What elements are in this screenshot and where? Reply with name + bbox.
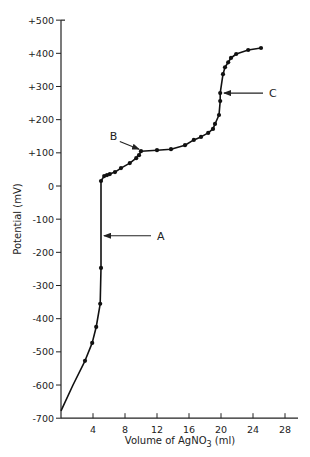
data-point bbox=[229, 56, 233, 60]
y-tick-label: -600 bbox=[32, 380, 54, 391]
arrow-B bbox=[120, 142, 139, 150]
data-point bbox=[90, 341, 94, 345]
data-point bbox=[99, 266, 103, 270]
data-series bbox=[61, 46, 263, 411]
data-point bbox=[217, 113, 221, 117]
data-point bbox=[98, 302, 102, 306]
data-point bbox=[234, 52, 238, 56]
x-axis: 481216202428 bbox=[61, 413, 298, 435]
data-point bbox=[199, 135, 203, 139]
data-point bbox=[108, 172, 112, 176]
data-point bbox=[83, 359, 87, 363]
y-axis: +500+400+300+200+1000-100-200-300-400-50… bbox=[28, 15, 65, 424]
y-tick-label: +300 bbox=[28, 81, 54, 92]
data-point bbox=[128, 161, 132, 165]
y-axis-label: Potential (mV) bbox=[12, 183, 23, 254]
data-point bbox=[99, 179, 103, 183]
data-point bbox=[206, 131, 210, 135]
data-point bbox=[139, 149, 143, 153]
y-tick-label: +100 bbox=[28, 147, 54, 158]
y-tick-label: -500 bbox=[32, 346, 54, 357]
y-tick-label: -700 bbox=[32, 413, 54, 424]
data-point bbox=[137, 153, 141, 157]
annotation-label-B: B bbox=[110, 130, 118, 143]
data-point bbox=[119, 166, 123, 170]
data-point bbox=[183, 143, 187, 147]
data-point bbox=[223, 65, 227, 69]
data-point bbox=[218, 99, 222, 103]
data-point bbox=[94, 325, 98, 329]
y-tick-label: +500 bbox=[28, 15, 54, 26]
data-point bbox=[221, 72, 225, 76]
annotation-label-A: A bbox=[157, 230, 165, 243]
x-tick-label: 8 bbox=[122, 424, 128, 435]
data-point bbox=[213, 122, 217, 126]
data-point bbox=[226, 60, 230, 64]
x-tick-label: 12 bbox=[151, 424, 163, 435]
x-tick-label: 16 bbox=[183, 424, 195, 435]
data-point bbox=[169, 147, 173, 151]
annotation-label-C: C bbox=[269, 87, 277, 100]
y-tick-label: +200 bbox=[28, 114, 54, 125]
data-point bbox=[211, 127, 215, 131]
data-point bbox=[259, 46, 263, 50]
x-tick-label: 4 bbox=[90, 424, 96, 435]
y-tick-label: -400 bbox=[32, 313, 54, 324]
x-tick-label: 24 bbox=[247, 424, 259, 435]
data-point bbox=[246, 48, 250, 52]
x-tick-label: 20 bbox=[215, 424, 227, 435]
data-point bbox=[218, 91, 222, 95]
x-tick-label: 28 bbox=[279, 424, 291, 435]
y-tick-label: -100 bbox=[32, 214, 54, 225]
y-tick-label: -300 bbox=[32, 280, 54, 291]
y-tick-label: 0 bbox=[48, 181, 54, 192]
data-point bbox=[113, 170, 117, 174]
y-tick-label: -200 bbox=[32, 247, 54, 258]
titration-chart: +500+400+300+200+1000-100-200-300-400-50… bbox=[0, 0, 310, 457]
x-axis-label: Volume of AgNO3 (ml) bbox=[125, 435, 235, 449]
y-tick-label: +400 bbox=[28, 48, 54, 59]
data-point bbox=[155, 148, 159, 152]
data-point bbox=[192, 138, 196, 142]
